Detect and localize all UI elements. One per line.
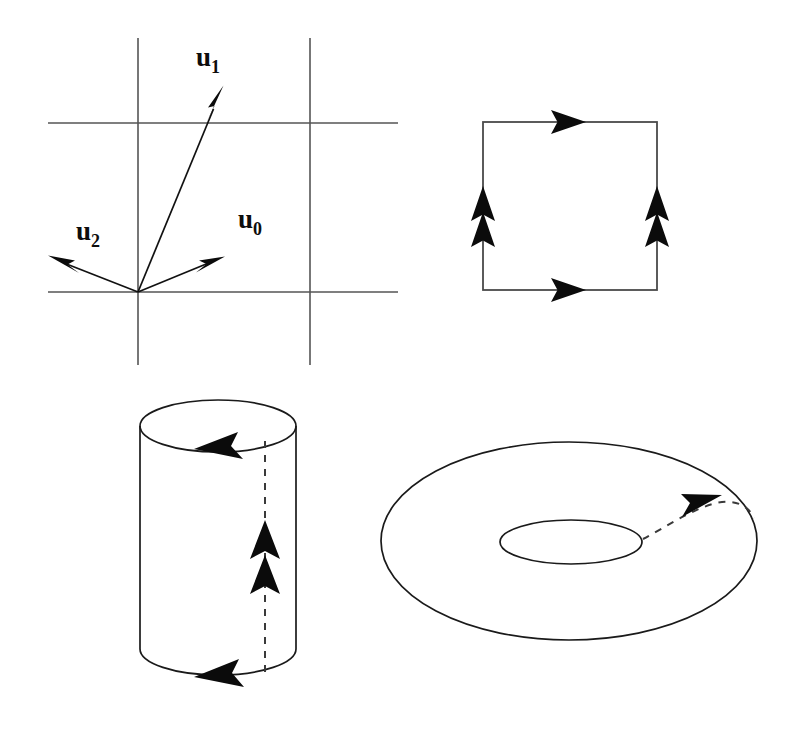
torus-outer-outline [381, 442, 757, 640]
vector-u2-shaft [64, 263, 138, 292]
figure-canvas: u1 u0 u2 [0, 0, 806, 729]
vector-u2 [48, 256, 138, 293]
vector-label-u0: u0 [238, 204, 262, 239]
vector-u1-shaft [138, 109, 214, 292]
vector-label-u2: u2 [76, 216, 100, 251]
cylinder-seam-arrow-2 [250, 555, 280, 594]
cylinder-bottom-rim-arrow [194, 659, 244, 687]
torus-panel [381, 442, 757, 640]
cylinder-top-rim-arrow [194, 432, 243, 459]
vector-u1-arrowhead [207, 86, 224, 123]
cylinder-panel [140, 400, 296, 687]
vector-u2-arrowhead [48, 256, 79, 274]
square-outline [483, 122, 657, 290]
vector-u0-arrowhead [196, 257, 225, 273]
grid-lines [48, 38, 398, 365]
lattice-basis-vectors-panel: u1 u0 u2 [48, 38, 398, 365]
identified-square-panel [471, 110, 669, 302]
torus-inner-hole [500, 520, 642, 564]
torus-construction-figure: u1 u0 u2 [0, 0, 806, 729]
torus-seam-arrow [681, 494, 722, 517]
vector-label-u1: u1 [196, 42, 220, 77]
